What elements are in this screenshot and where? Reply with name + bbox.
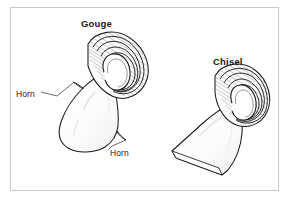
gouge-horn-left-tip: [73, 82, 83, 89]
gouge-tool: [59, 23, 157, 152]
gouge-title-label: Gouge: [81, 18, 112, 29]
leader-line-horn-left: [41, 83, 73, 96]
chisel-tool: [172, 55, 279, 175]
figure-root: Gouge Chisel Horn Horn: [0, 0, 289, 216]
tool-illustration-artwork: [0, 0, 289, 216]
horn-callout-label-left: Horn: [16, 89, 35, 99]
horn-callout-label-right: Horn: [110, 148, 129, 158]
chisel-title-label: Chisel: [213, 56, 243, 67]
gouge-horn-right-tip: [117, 131, 126, 140]
partial-caption-sliver: [8, 206, 188, 216]
gouge-cutting-edge: [103, 54, 130, 90]
